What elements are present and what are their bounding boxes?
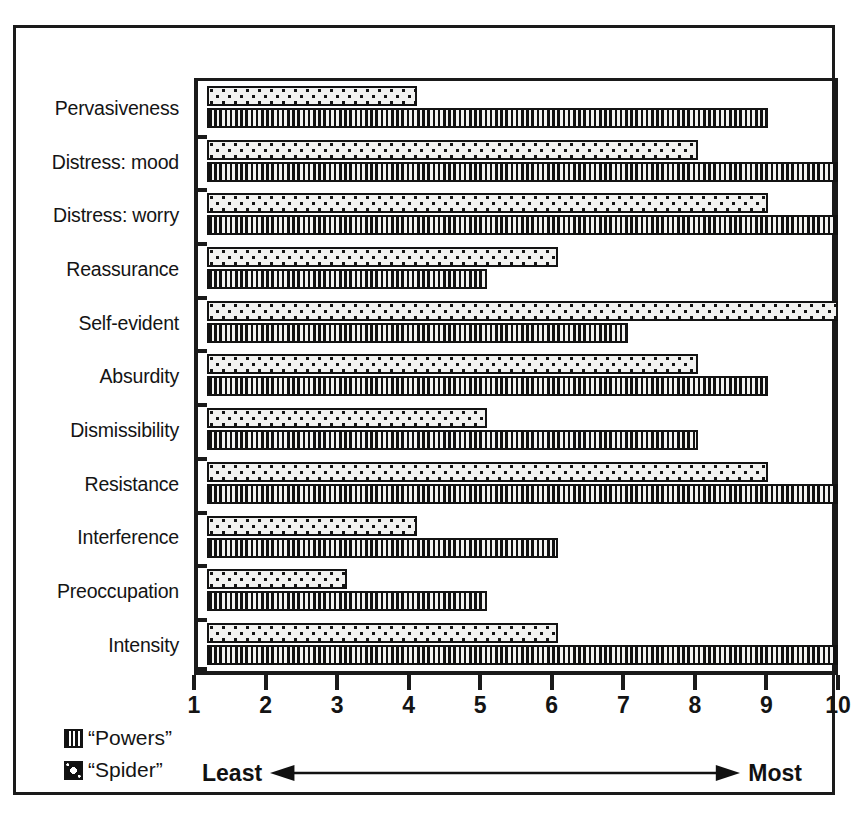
bar-rows: PervasivenessDistress: moodDistress: wor… bbox=[207, 81, 838, 671]
category-row: Resistance bbox=[207, 457, 838, 511]
category-label: Dismissibility bbox=[70, 418, 179, 441]
bar-spider bbox=[207, 86, 417, 106]
x-axis-tick-label: 6 bbox=[545, 692, 558, 719]
y-axis-tick bbox=[194, 188, 207, 192]
bar-powers bbox=[207, 430, 698, 450]
x-axis-tick-label: 8 bbox=[688, 692, 701, 719]
y-axis-tick bbox=[194, 403, 207, 407]
category-row: Self-evident bbox=[207, 296, 838, 350]
bar-powers bbox=[207, 323, 628, 343]
x-axis-tick-label: 2 bbox=[259, 692, 272, 719]
figure-frame: PervasivenessDistress: moodDistress: wor… bbox=[13, 25, 835, 795]
bar-spider bbox=[207, 247, 558, 267]
x-axis-tick-label: 5 bbox=[474, 692, 487, 719]
y-axis-tick bbox=[194, 511, 207, 515]
category-label: Intensity bbox=[108, 633, 179, 656]
y-axis-tick bbox=[194, 618, 207, 622]
bar-pair bbox=[207, 623, 838, 667]
x-axis-tick bbox=[693, 675, 697, 690]
bar-pair bbox=[207, 462, 838, 506]
bar-spider bbox=[207, 623, 558, 643]
category-row: Interference bbox=[207, 511, 838, 565]
x-axis-tick bbox=[836, 675, 840, 690]
category-label: Absurdity bbox=[100, 365, 180, 388]
x-axis-tick bbox=[407, 675, 411, 690]
bar-spider bbox=[207, 516, 417, 536]
bar-powers bbox=[207, 538, 558, 558]
category-label: Self-evident bbox=[78, 311, 179, 334]
category-row: Dismissibility bbox=[207, 403, 838, 457]
category-label: Distress: worry bbox=[53, 204, 179, 227]
bar-pair bbox=[207, 140, 838, 184]
category-row: Pervasiveness bbox=[207, 81, 838, 135]
x-axis-tick-label: 4 bbox=[402, 692, 415, 719]
category-row: Intensity bbox=[207, 618, 838, 672]
chart-plot-area: PervasivenessDistress: moodDistress: wor… bbox=[194, 78, 838, 675]
bar-pair bbox=[207, 86, 838, 130]
category-row: Distress: worry bbox=[207, 188, 838, 242]
y-axis-tick bbox=[194, 349, 207, 353]
y-axis-tick bbox=[194, 457, 207, 461]
category-label: Resistance bbox=[85, 472, 179, 495]
bar-pair bbox=[207, 516, 838, 560]
y-axis-tick bbox=[194, 564, 207, 568]
bar-powers bbox=[207, 484, 838, 504]
double-arrow-icon bbox=[270, 762, 740, 784]
x-axis-tick-label: 3 bbox=[331, 692, 344, 719]
bar-pair bbox=[207, 247, 838, 291]
y-axis-tick bbox=[194, 135, 207, 139]
bar-spider bbox=[207, 569, 347, 589]
x-axis-tick-label: 1 bbox=[188, 692, 201, 719]
x-axis-tick bbox=[764, 675, 768, 690]
bar-powers bbox=[207, 269, 487, 289]
bar-spider bbox=[207, 408, 487, 428]
x-axis-tick-label: 9 bbox=[760, 692, 773, 719]
bar-pair bbox=[207, 193, 838, 237]
legend-label-powers: “Powers” bbox=[88, 726, 172, 750]
category-label: Reassurance bbox=[66, 257, 179, 280]
bar-pair bbox=[207, 408, 838, 452]
x-axis-tick-label: 10 bbox=[825, 692, 851, 719]
bar-spider bbox=[207, 462, 768, 482]
legend-swatch-powers-icon bbox=[64, 729, 83, 748]
x-axis-tick bbox=[621, 675, 625, 690]
bar-spider bbox=[207, 301, 838, 321]
legend-label-spider: “Spider” bbox=[88, 758, 163, 782]
bar-pair bbox=[207, 301, 838, 345]
bar-powers bbox=[207, 376, 768, 396]
scale-least-label: Least bbox=[202, 760, 262, 787]
x-axis-tick bbox=[192, 675, 196, 690]
bar-spider bbox=[207, 193, 768, 213]
category-row: Absurdity bbox=[207, 349, 838, 403]
bar-powers bbox=[207, 215, 838, 235]
bar-pair bbox=[207, 569, 838, 613]
scale-annotation: Least Most bbox=[202, 753, 802, 793]
y-axis-tick bbox=[194, 242, 207, 246]
bar-powers bbox=[207, 162, 838, 182]
y-axis-tick bbox=[194, 296, 207, 300]
x-axis-tick bbox=[264, 675, 268, 690]
scale-most-label: Most bbox=[748, 760, 802, 787]
x-axis-tick bbox=[550, 675, 554, 690]
bar-spider bbox=[207, 354, 698, 374]
bar-powers bbox=[207, 591, 487, 611]
y-axis-tick bbox=[194, 667, 207, 671]
legend-swatch-spider-icon bbox=[64, 761, 83, 780]
category-row: Reassurance bbox=[207, 242, 838, 296]
category-row: Distress: mood bbox=[207, 135, 838, 189]
bar-pair bbox=[207, 354, 838, 398]
x-axis-tick-label: 7 bbox=[617, 692, 630, 719]
category-label: Interference bbox=[77, 526, 179, 549]
category-label: Distress: mood bbox=[52, 150, 179, 173]
bar-powers bbox=[207, 108, 768, 128]
category-label: Preoccupation bbox=[57, 580, 179, 603]
legend-item-powers: “Powers” bbox=[64, 722, 314, 754]
bar-powers bbox=[207, 645, 838, 665]
x-axis-tick bbox=[478, 675, 482, 690]
category-label: Pervasiveness bbox=[55, 96, 179, 119]
bar-spider bbox=[207, 140, 698, 160]
category-row: Preoccupation bbox=[207, 564, 838, 618]
x-axis-tick bbox=[335, 675, 339, 690]
